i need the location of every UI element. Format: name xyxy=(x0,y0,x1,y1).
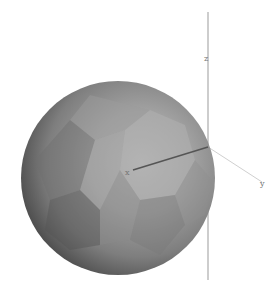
y-axis-line xyxy=(208,147,262,182)
x-axis-label: x xyxy=(125,168,130,177)
y-axis-label: y xyxy=(259,179,265,188)
sphere-mesh[interactable] xyxy=(21,81,215,275)
3d-viewport[interactable]: z y x xyxy=(0,0,278,294)
z-axis-label: z xyxy=(204,54,208,63)
